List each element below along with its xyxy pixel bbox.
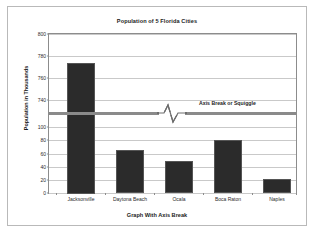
bar-jacksonville-upper [67,63,95,194]
gridline-800 [49,34,296,35]
cat-tick-2 [154,193,155,195]
cat-tick-1 [105,193,106,195]
tick-mark-800 [47,34,49,35]
tick-label-60: 60 [40,151,46,157]
cat-tick-3 [203,193,204,195]
tick-label-0: 0 [43,190,46,196]
tick-mark-20 [47,180,49,181]
tick-label-80: 80 [40,137,46,143]
bar-ocala [165,161,193,193]
tick-mark-60 [47,154,49,155]
bar-naples [263,179,291,193]
y-axis-title: Population in Thousands [23,38,29,158]
tick-mark-760 [47,78,49,79]
x-label-ocala: Ocala [172,196,185,202]
gridline-780 [49,56,296,57]
axis-break-squiggle-stroke-icon [157,103,187,124]
tick-label-800: 800 [38,31,46,37]
plot-area: 800 780 760 740 100 80 60 40 20 0 [48,33,297,194]
axis-break-note: Axis Break or Squiggle [199,100,256,106]
tick-label-40: 40 [40,164,46,170]
chart-frame: Population of 5 Florida Cities Populatio… [7,6,307,226]
bar-daytona-beach [116,150,144,193]
tick-mark-740 [47,100,49,101]
cat-tick-5 [296,193,297,195]
tick-label-740: 740 [38,97,46,103]
tick-mark-780 [47,56,49,57]
tick-mark-40 [47,167,49,168]
tick-label-780: 780 [38,53,46,59]
x-axis-title: Graph With Axis Break [8,212,306,218]
x-label-jacksonville: Jacksonville [68,196,95,202]
tick-mark-100 [47,127,49,128]
tick-label-20: 20 [40,177,46,183]
cat-tick-4 [252,193,253,195]
tick-label-760: 760 [38,75,46,81]
x-label-daytona-beach: Daytona Beach [113,196,147,202]
tick-mark-0 [47,193,49,194]
tick-label-100: 100 [38,124,46,130]
cat-tick-0 [56,193,57,195]
x-label-boca-raton: Boca Raton [215,196,241,202]
chart-title: Population of 5 Florida Cities [8,18,306,24]
bar-boca-raton [214,140,242,193]
tick-mark-80 [47,140,49,141]
x-label-naples: Naples [269,196,285,202]
